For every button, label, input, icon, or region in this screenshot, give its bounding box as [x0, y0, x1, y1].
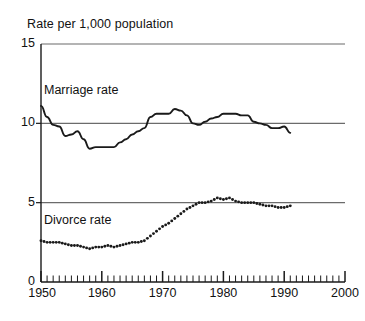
divorce-dot — [100, 246, 103, 249]
divorce-dot — [109, 245, 112, 248]
divorce-dot — [61, 242, 64, 245]
divorce-dot — [97, 246, 100, 249]
divorce-dot — [76, 244, 79, 247]
divorce-dot — [210, 200, 213, 203]
divorce-dot — [73, 244, 76, 247]
divorce-dot — [268, 204, 271, 207]
divorce-dot — [216, 196, 219, 199]
divorce-dot — [149, 235, 152, 238]
divorce-dot — [116, 245, 119, 248]
divorce-dot — [70, 244, 73, 247]
divorce-dot — [277, 206, 280, 209]
divorce-rate-label: Divorce rate — [44, 213, 111, 227]
divorce-dot — [198, 201, 201, 204]
chart-container: Rate per 1,000 population 051015 1950196… — [0, 0, 365, 321]
divorce-dot — [265, 204, 268, 207]
divorce-dot — [243, 201, 246, 204]
divorce-dot — [231, 198, 234, 201]
y-tick-label-10: 10 — [0, 116, 35, 129]
divorce-dot — [134, 241, 137, 244]
divorce-dot — [119, 244, 122, 247]
divorce-dot — [249, 201, 252, 204]
divorce-dot — [286, 205, 289, 208]
divorce-dot — [167, 222, 170, 225]
divorce-dot — [252, 201, 255, 204]
divorce-dot — [88, 247, 91, 250]
marriage-rate-label: Marriage rate — [44, 83, 118, 97]
divorce-dot — [219, 197, 222, 200]
divorce-dot — [182, 210, 185, 213]
divorce-dot — [113, 246, 116, 249]
divorce-dot — [255, 202, 258, 205]
divorce-dot — [283, 206, 286, 209]
divorce-dot — [185, 208, 188, 211]
divorce-dot — [173, 217, 176, 220]
divorce-dot — [192, 204, 195, 207]
divorce-dot — [234, 200, 237, 203]
marriage-rate-line — [41, 106, 290, 149]
divorce-dot — [158, 227, 161, 230]
divorce-dot — [125, 242, 128, 245]
divorce-dot — [155, 230, 158, 233]
divorce-dot — [94, 246, 97, 249]
divorce-dot — [201, 201, 204, 204]
divorce-dot — [280, 206, 283, 209]
divorce-dot — [79, 245, 82, 248]
divorce-dot — [164, 223, 167, 226]
divorce-dot — [40, 239, 43, 242]
divorce-dot — [67, 243, 70, 246]
divorce-dot — [85, 246, 88, 249]
divorce-dot — [152, 232, 155, 235]
divorce-dot — [58, 241, 61, 244]
divorce-dot — [222, 198, 225, 201]
x-tick-label-2000: 2000 — [331, 286, 359, 300]
divorce-dot — [161, 225, 164, 228]
divorce-dot — [246, 201, 249, 204]
divorce-dot — [258, 203, 261, 206]
divorce-dot — [176, 215, 179, 218]
divorce-dot — [49, 241, 52, 244]
x-minor-ticks-group — [47, 276, 339, 283]
divorce-dot — [128, 242, 131, 245]
divorce-dot — [189, 206, 192, 209]
divorce-dot — [274, 205, 277, 208]
divorce-dot — [140, 240, 143, 243]
divorce-dot — [122, 243, 125, 246]
divorce-dot — [55, 241, 58, 244]
x-tick-label-1950: 1950 — [28, 286, 56, 300]
divorce-dot — [91, 246, 94, 249]
divorce-dot — [240, 201, 243, 204]
divorce-dot — [137, 241, 140, 244]
divorce-dot — [271, 204, 274, 207]
x-tick-label-1980: 1980 — [209, 286, 237, 300]
x-tick-label-1990: 1990 — [270, 286, 298, 300]
divorce-dot — [237, 200, 240, 203]
divorce-dot — [204, 201, 207, 204]
divorce-dot — [143, 239, 146, 242]
chart-plot-area — [0, 0, 365, 321]
divorce-dot — [52, 241, 55, 244]
divorce-dot — [207, 200, 210, 203]
divorce-dot — [106, 244, 109, 247]
divorce-dot — [146, 237, 149, 240]
divorce-dot — [195, 203, 198, 206]
divorce-dot — [261, 204, 264, 207]
divorce-dot — [213, 198, 216, 201]
divorce-dot — [103, 245, 106, 248]
divorce-dot — [131, 241, 134, 244]
divorce-dot — [225, 197, 228, 200]
divorce-dot — [82, 246, 85, 249]
x-tick-label-1960: 1960 — [88, 286, 116, 300]
y-tick-label-15: 15 — [0, 37, 35, 50]
x-tick-label-1970: 1970 — [149, 286, 177, 300]
divorce-dot — [43, 240, 46, 243]
y-tick-label-5: 5 — [0, 196, 35, 209]
divorce-dot — [228, 196, 231, 199]
divorce-dot — [179, 212, 182, 215]
divorce-dot — [46, 241, 49, 244]
divorce-dot — [64, 242, 67, 245]
divorce-dot — [289, 204, 292, 207]
divorce-dot — [170, 219, 173, 222]
